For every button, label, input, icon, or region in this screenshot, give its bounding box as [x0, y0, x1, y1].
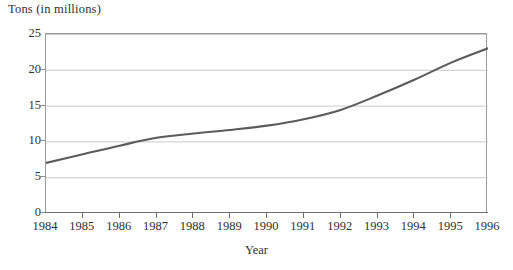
- x-tick-mark: [229, 213, 230, 218]
- x-tick-mark: [303, 213, 304, 218]
- plot-area: [45, 33, 487, 212]
- y-tick-label: 0: [7, 205, 41, 220]
- x-tick-mark: [413, 213, 414, 218]
- y-tick-label: 20: [7, 61, 41, 76]
- x-tick-mark: [450, 213, 451, 218]
- gridlines: [46, 35, 488, 178]
- x-tick-mark: [82, 213, 83, 218]
- y-tick-label: 15: [7, 97, 41, 112]
- y-tick-label: 5: [7, 169, 41, 184]
- x-axis-title: Year: [0, 243, 513, 258]
- x-tick-mark: [119, 213, 120, 218]
- y-tick-label: 25: [7, 26, 41, 41]
- line-chart: Tons (in millions) 0510152025 1984198519…: [0, 0, 513, 270]
- x-tick-mark: [156, 213, 157, 218]
- x-tick-label: 1996: [465, 219, 509, 234]
- x-tick-mark: [266, 213, 267, 218]
- x-tick-mark: [377, 213, 378, 218]
- x-tick-mark: [192, 213, 193, 218]
- x-tick-mark: [340, 213, 341, 218]
- y-tick-label: 10: [7, 133, 41, 148]
- plot-svg: [46, 34, 488, 213]
